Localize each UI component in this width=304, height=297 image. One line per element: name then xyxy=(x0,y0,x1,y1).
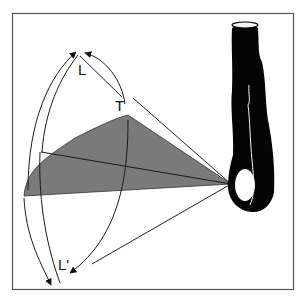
arc-arrow-outer-down xyxy=(24,198,51,285)
cone-line-lower xyxy=(92,184,231,264)
label-l: L xyxy=(78,61,86,78)
label-l-prime: L' xyxy=(58,256,69,273)
diagram-figure: L T L' xyxy=(0,0,304,297)
label-t: T xyxy=(115,97,124,114)
limb-silhouette xyxy=(228,22,274,212)
